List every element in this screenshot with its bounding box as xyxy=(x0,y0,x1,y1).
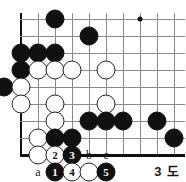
grid-line-vertical xyxy=(157,13,158,155)
stone-black xyxy=(114,112,133,131)
stone-black xyxy=(46,10,65,29)
stone-white xyxy=(97,61,116,80)
move-number: 4 xyxy=(69,167,75,178)
point-label-b: b xyxy=(86,149,92,161)
stone-white xyxy=(63,61,82,80)
grid-line-vertical xyxy=(106,13,107,155)
point-label-a: a xyxy=(35,166,40,178)
grid-line-horizontal xyxy=(20,87,185,88)
grid-line-vertical xyxy=(123,13,124,155)
stone-black xyxy=(165,129,184,148)
star-point xyxy=(138,17,143,22)
stone-black xyxy=(80,27,99,46)
move-number: 2 xyxy=(52,150,58,161)
diagram-caption: 3 도 xyxy=(154,161,180,180)
move-number: 3 xyxy=(69,150,75,161)
stone-black xyxy=(148,112,167,131)
move-number: 1 xyxy=(52,167,58,178)
stone-black-move-5: 5 xyxy=(97,163,116,182)
grid-line-horizontal xyxy=(20,36,185,37)
go-diagram: 23145 abc 3 도 xyxy=(0,0,186,182)
move-number: 5 xyxy=(103,167,109,178)
grid-line-vertical xyxy=(140,13,141,155)
point-label-c: c xyxy=(103,149,108,161)
stone-white xyxy=(12,95,31,114)
